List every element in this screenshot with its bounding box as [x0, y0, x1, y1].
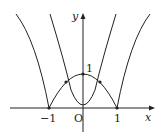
graph: y x 1 −1 O 1 [0, 0, 161, 139]
x-arrow-icon [149, 106, 155, 111]
outer-curve-right [117, 14, 150, 108]
y-arrow-icon [81, 13, 86, 19]
point-neg1 [47, 106, 50, 109]
intersection-right [98, 80, 101, 83]
tick-x-neg1: −1 [40, 112, 56, 125]
intersection-left [64, 80, 67, 83]
outer-curve-left [16, 14, 49, 108]
origin-label: O [74, 112, 83, 125]
tick-y1: 1 [86, 62, 93, 75]
y-label: y [71, 10, 79, 23]
tick-x1: 1 [114, 112, 121, 125]
point-1 [115, 106, 118, 109]
point-y1 [81, 72, 84, 75]
x-label: x [145, 111, 152, 124]
